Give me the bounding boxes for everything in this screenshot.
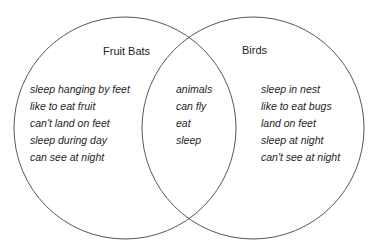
list-item: sleep in nest — [261, 81, 340, 98]
list-item: can't land on feet — [30, 115, 130, 132]
birds-items: sleep in nest like to eat bugs land on f… — [261, 81, 340, 166]
fruit-bats-items: sleep hanging by feet like to eat fruit … — [30, 81, 130, 166]
fruit-bats-title: Fruit Bats — [103, 45, 150, 58]
intersection-items: animals can fly eat sleep — [176, 81, 212, 149]
list-item: can fly — [176, 98, 212, 115]
list-item: like to eat bugs — [261, 98, 340, 115]
list-item: like to eat fruit — [30, 98, 130, 115]
list-item: can't see at night — [261, 149, 340, 166]
list-item: land on feet — [261, 115, 340, 132]
list-item: sleep during day — [30, 132, 130, 149]
list-item: eat — [176, 115, 212, 132]
list-item: can see at night — [30, 149, 130, 166]
list-item: sleep at night — [261, 132, 340, 149]
birds-title: Birds — [242, 44, 267, 57]
list-item: sleep hanging by feet — [30, 81, 130, 98]
list-item: sleep — [176, 132, 212, 149]
list-item: animals — [176, 81, 212, 98]
